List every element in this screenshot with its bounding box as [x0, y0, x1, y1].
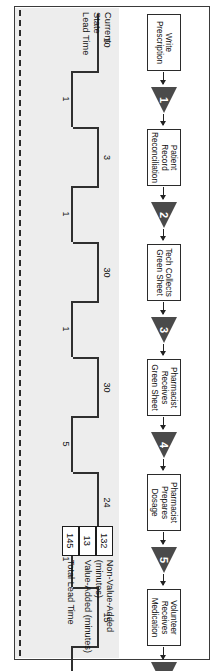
- va-value-4: 5: [61, 416, 70, 472]
- summary-value-2: 13: [79, 526, 96, 556]
- va-value-3: 1: [61, 301, 70, 357]
- summary-value-3: 145: [62, 526, 79, 556]
- summary-row-2: 13Value-Added (minutes): [79, 526, 96, 653]
- flow-arrow-5b: [163, 574, 164, 585]
- flow-arrow-3b: [163, 344, 164, 355]
- diagram-viewport: Write Prescription1Patient Record Reconc…: [0, 0, 217, 671]
- nva-segment-2: [97, 129, 99, 186]
- summary-table: 132Non-Value-Added (minutes)13Value-Adde…: [62, 526, 113, 653]
- step-marker-label-1: 1: [151, 87, 177, 122]
- summary-value-1: 132: [96, 526, 113, 556]
- riser-down-4: [73, 416, 99, 418]
- summary-label-1: Non-Value-Added (minutes): [94, 560, 115, 632]
- axis-caption-line-1: Current: [102, 12, 113, 82]
- flow-arrow-1b: [163, 114, 164, 125]
- flow-arrow-4a: [163, 417, 164, 429]
- value-stream-map: Write Prescription1Patient Record Reconc…: [0, 0, 217, 671]
- axis-caption-line-3: Lead Time: [80, 12, 91, 82]
- step-marker-label-3: 3: [151, 317, 177, 352]
- nva-segment-5: [97, 474, 99, 531]
- nva-value-3: 30: [102, 244, 111, 301]
- process-box-4: Pharmacist Receives Green Sheet: [147, 359, 181, 416]
- flow-arrow-4b: [163, 459, 164, 470]
- axis-caption-line-2: State: [91, 12, 102, 82]
- riser-up-2: [73, 242, 99, 244]
- summary-label-2: Value-Added (minutes): [82, 560, 92, 653]
- axis-caption: CurrentStateLead Time: [80, 12, 113, 82]
- riser-down-2: [73, 186, 99, 188]
- va-value-1: 1: [61, 71, 70, 127]
- step-marker-label-5: 5: [151, 547, 177, 582]
- va-segment-1: [71, 71, 73, 127]
- va-segment-2: [71, 186, 73, 242]
- flow-arrow-1a: [163, 72, 164, 84]
- nva-segment-3: [97, 244, 99, 301]
- va-segment-3: [71, 301, 73, 357]
- riser-up-3: [73, 357, 99, 359]
- nva-value-2: 3: [102, 129, 111, 186]
- process-box-2: Patient Record Reconciliation: [147, 129, 181, 186]
- flow-arrow-2b: [163, 229, 164, 240]
- summary-row-1: 132Non-Value-Added (minutes): [96, 526, 113, 653]
- flow-arrow-5a: [163, 532, 164, 544]
- flow-arrow-2a: [163, 187, 164, 199]
- flow-arrow-3a: [163, 302, 164, 314]
- process-box-1: Write Prescription: [147, 14, 181, 71]
- riser-down-3: [73, 301, 99, 303]
- va-segment-4: [71, 416, 73, 472]
- nva-value-4: 30: [102, 359, 111, 416]
- riser-up-4: [73, 472, 99, 474]
- process-flow-row: Write Prescription1Patient Record Reconc…: [127, 14, 201, 654]
- va-value-2: 1: [61, 186, 70, 242]
- process-box-3: Tech Collects Green Sheet: [147, 244, 181, 301]
- summary-label-3: Total Lead Time: [65, 560, 75, 625]
- nva-segment-4: [97, 359, 99, 416]
- process-box-5: Pharmacist Prepares Dosage: [147, 474, 181, 531]
- flow-arrow-6a: [163, 647, 164, 659]
- step-marker-label-6: 6: [151, 662, 177, 671]
- step-marker-label-4: 4: [151, 432, 177, 467]
- riser-up-1: [73, 127, 99, 129]
- baseline-dashed-rule: [19, 10, 21, 656]
- process-box-6: Volunteer Receives Medication: [147, 589, 181, 646]
- nva-value-5: 24: [102, 474, 111, 531]
- summary-row-3: 145Total Lead Time: [62, 526, 79, 653]
- step-marker-label-2: 2: [151, 202, 177, 237]
